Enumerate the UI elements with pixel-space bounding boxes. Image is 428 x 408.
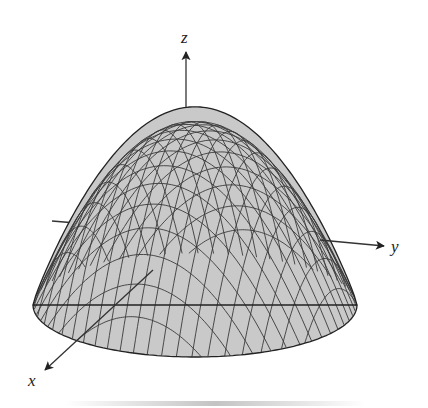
- paraboloid-surface: [33, 107, 357, 357]
- page-scan-edge: [65, 401, 365, 406]
- x-axis-label: x: [27, 371, 36, 390]
- z-axis-label: z: [180, 28, 188, 47]
- paraboloid-diagram: z y x: [0, 0, 428, 408]
- y-axis-label: y: [389, 237, 399, 256]
